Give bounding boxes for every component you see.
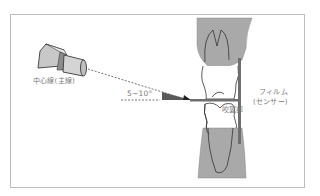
angle-label: 5~10° [127, 90, 152, 98]
central-ray-label: 中心線(主線) [33, 78, 75, 85]
upper-tooth [197, 18, 252, 99]
arrow-head-icon [183, 95, 191, 100]
xray-tube-icon [38, 44, 87, 76]
film-sensor [238, 58, 241, 144]
bite-wing-label: 咬翼部 [222, 107, 244, 114]
film-label-line2: (センサー) [253, 99, 288, 106]
bite-wing-tab [190, 99, 239, 102]
film-label-line1: フィルム [259, 89, 288, 96]
